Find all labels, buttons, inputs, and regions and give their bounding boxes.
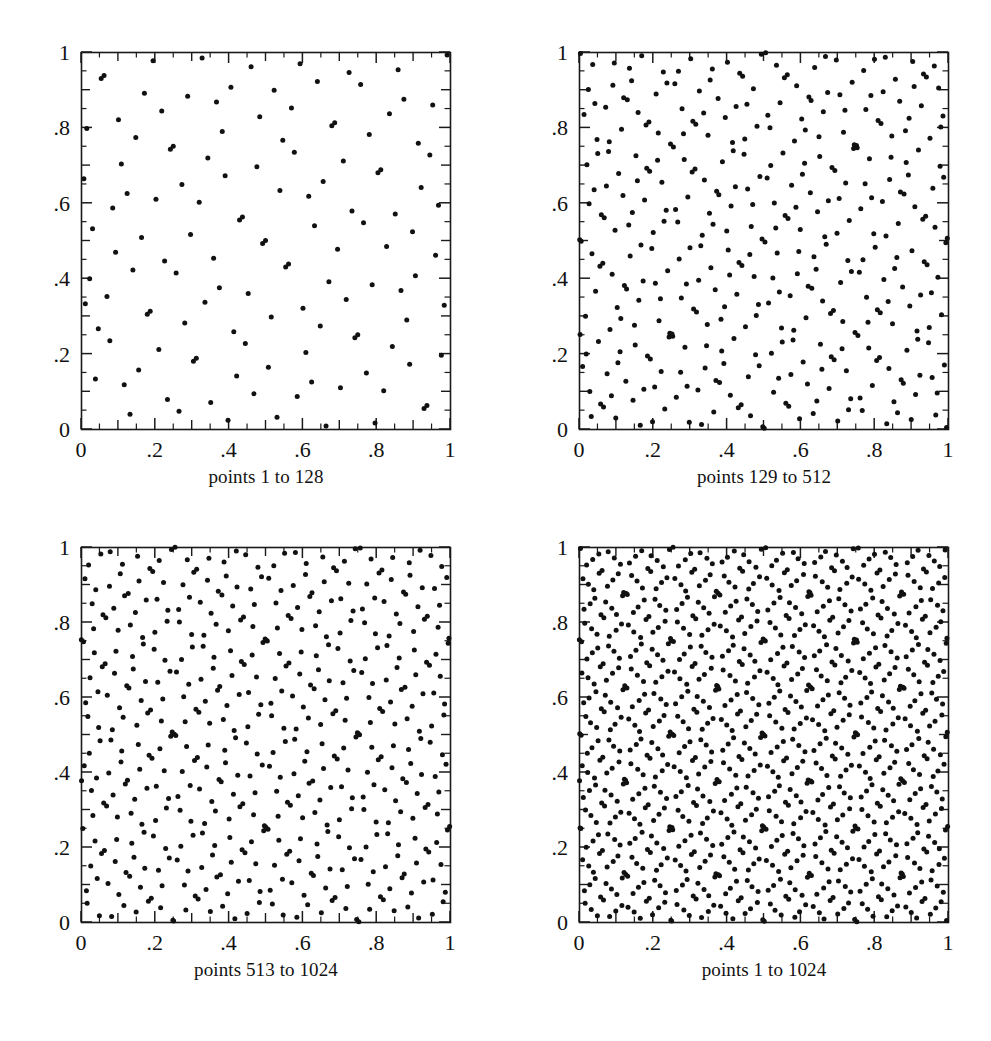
data-point [439,564,444,569]
y-tick-label: .8 [552,610,569,635]
data-point [798,815,803,820]
data-point [896,809,901,814]
data-point [155,597,160,602]
data-point [367,907,372,912]
data-point [307,781,312,786]
data-point [839,746,844,751]
data-point [393,211,398,216]
data-point [206,743,211,748]
data-point [702,887,707,892]
data-point [609,887,614,892]
data-point [429,724,434,729]
data-point [842,696,847,701]
data-point [911,767,916,772]
data-point [895,621,900,626]
y-tick-label: 1 [59,42,70,65]
data-point [281,913,286,918]
data-point [116,892,121,897]
data-point [598,612,603,617]
data-point [704,743,709,748]
data-point [753,846,758,851]
data-point [130,267,135,272]
data-point [697,677,702,682]
data-point [180,582,185,587]
data-point [320,554,325,559]
data-point [591,870,596,875]
data-point [720,654,725,659]
data-point [639,548,644,553]
data-point [329,598,334,603]
axis-ticks [81,547,450,922]
x-tick-label: 1 [943,437,954,462]
data-point [602,803,607,808]
x-tick-label: .8 [866,930,883,955]
data-point [685,877,690,882]
data-point [410,229,415,234]
data-point [316,667,321,672]
x-tick-label: 0 [76,437,87,462]
data-point [171,918,176,923]
data-point [211,655,216,660]
data-point [630,797,635,802]
data-point [713,287,718,292]
data-point [180,769,185,774]
data-point [795,672,800,677]
data-point [703,365,708,370]
data-point [607,821,612,826]
data-point [105,693,110,698]
data-point [209,611,214,616]
y-tick-label: .6 [54,685,71,710]
data-point [886,699,891,704]
data-point [805,382,810,387]
data-point [657,603,662,608]
data-point [661,69,666,74]
data-point [383,864,388,869]
data-point [898,776,903,781]
data-point [909,742,914,747]
data-point [213,809,218,814]
data-point [610,671,615,676]
data-point [578,826,583,831]
x-tick-label: .8 [368,930,385,955]
data-point [580,576,585,581]
data-point [719,842,724,847]
data-point [406,747,411,752]
data-point [390,344,395,349]
data-point [847,712,852,717]
data-point [885,606,890,611]
data-point [136,368,141,373]
data-point [717,592,722,597]
data-point [744,597,749,602]
data-point [823,549,828,554]
data-point [366,695,371,700]
data-point [735,692,740,697]
data-point [792,915,797,920]
data-point [226,628,231,633]
data-point [913,604,918,609]
data-point [423,805,428,810]
data-point [664,80,669,85]
data-point [158,905,163,910]
data-point [673,858,678,863]
data-point [704,556,709,561]
data-point [235,773,240,778]
data-point [826,692,831,697]
data-point [622,283,627,288]
data-point [373,421,378,426]
data-point [729,823,734,828]
x-tick-label: .4 [718,930,735,955]
data-point [650,630,655,635]
data-point [733,773,738,778]
data-point [915,337,920,342]
data-point [680,106,685,111]
data-point [678,370,683,375]
data-point [223,173,228,178]
data-point [579,670,584,675]
data-point [641,279,646,284]
data-point [299,650,304,655]
data-point [344,297,349,302]
data-point [615,360,620,365]
data-point [387,111,392,116]
data-point [813,854,818,859]
data-point [676,808,681,813]
